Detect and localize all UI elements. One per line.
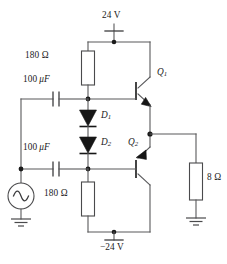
ground-source-symbol (11, 219, 31, 226)
junction-dot-supply (112, 40, 117, 45)
load-resistor-label: 8 Ω (207, 173, 221, 182)
capacitor-bottom-unit: μF (39, 142, 50, 152)
circuit-schematic: 24 V 180 Ω 100 μF Q1 D1 100 μF D2 Q2 180… (0, 0, 227, 264)
bottom-supply-rail (88, 230, 150, 240)
capacitor-top-value: 100 (23, 74, 37, 84)
bias-resistor-bottom-symbol (82, 169, 95, 232)
supply-positive-terminal (105, 24, 123, 42)
bias-diode-2-sub: 2 (108, 140, 112, 147)
transistor-q2-base: Q (128, 137, 135, 147)
bias-diode-1-label: D1 (101, 111, 111, 121)
transistor-q1-label: Q1 (157, 68, 167, 78)
bias-diode-1-base: D (101, 110, 108, 120)
bias-diode-1-sub: 1 (108, 113, 112, 120)
ground-load-symbol (186, 218, 206, 225)
supply-negative-label: −24 V (100, 243, 124, 252)
coupling-capacitor-top-label: 100 μF (23, 75, 50, 84)
bias-resistor-bottom-label: 180 Ω (44, 189, 68, 198)
transistor-q2-sub: 2 (135, 140, 139, 147)
supply-positive-label: 24 V (102, 11, 121, 20)
bias-diode-2-label: D2 (101, 138, 111, 148)
transistor-q1-sub: 1 (164, 70, 168, 77)
transistor-q2-symbol (88, 134, 150, 232)
input-bus (19, 99, 24, 183)
transistor-q1-symbol (88, 42, 151, 134)
load-resistor-symbol (190, 163, 203, 218)
output-branch (147, 131, 196, 163)
top-supply-rail (88, 40, 150, 45)
bias-resistor-top-label: 180 Ω (25, 51, 49, 60)
coupling-capacitor-bottom-label: 100 μF (23, 143, 50, 152)
transistor-q2-label: Q2 (128, 138, 138, 148)
page-edge-artifact (2, 250, 72, 262)
ac-source-symbol (8, 183, 34, 219)
coupling-capacitor-top-symbol (21, 92, 88, 107)
capacitor-top-unit: μF (39, 74, 50, 84)
schematic-canvas (0, 0, 227, 264)
bias-diode-2-symbol (80, 137, 97, 169)
transistor-q1-base: Q (157, 67, 164, 77)
coupling-capacitor-bottom-symbol (21, 162, 88, 177)
bias-resistor-top-symbol (82, 42, 95, 99)
bias-diode-2-base: D (101, 137, 108, 147)
capacitor-bottom-value: 100 (23, 142, 37, 152)
junction-dot-input (19, 167, 24, 172)
bias-diode-1-symbol (80, 99, 97, 137)
